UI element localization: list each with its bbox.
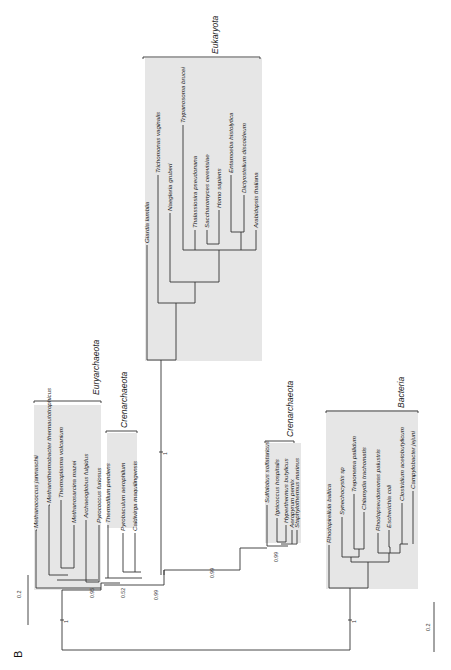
taxon-label: Naegleria gruberi (166, 163, 173, 211)
taxon-label: Clostridium acetobutylicum (398, 427, 405, 501)
clade-label-euryarchaeota: Euryarchaeota (91, 339, 101, 395)
clade-label-crenarchaeota-top: Crenarchaeota (119, 371, 129, 428)
panel-label-group: B (12, 651, 24, 658)
taxon-label: Thermoplasma volcanium (57, 427, 64, 498)
support-value: 0.99 (273, 552, 279, 562)
taxon-label: Staphylothermus marinus (293, 458, 300, 528)
taxon-label: Methanothermobacter thermautotrophicus (45, 388, 52, 503)
taxon-label: Campylobacter jejuni (409, 431, 416, 489)
root-branch (62, 590, 350, 650)
arch-backbone-3 (164, 570, 240, 585)
taxon-label: Escherichia coli (385, 484, 392, 528)
scale-bar-top: 0.2 (16, 575, 28, 625)
clade-label-crenarchaeota-mid: Crenarchaeota (285, 380, 295, 437)
support-value: 0.99 (209, 568, 215, 578)
taxon-label: Methanosarcina mazei (70, 460, 77, 523)
taxon-label: Treponema pallidum (350, 436, 357, 492)
cren-mid-stem (240, 548, 267, 570)
taxon-label: Synechocystis sp (338, 467, 345, 515)
taxon-label: Pyrobaculum aerophilum (119, 463, 126, 531)
taxon-label: Methanococcus jannaschii (32, 455, 39, 528)
taxon-label: Homo sapiens (215, 168, 222, 208)
scale-bar-bottom: 0.2 (425, 602, 434, 652)
support-value: 1 (63, 620, 69, 623)
taxon-label: Sulfolobus solfataricus (263, 441, 270, 503)
support-value: 0.99 (153, 590, 159, 600)
panel-label: B (12, 651, 24, 658)
taxon-label: Arabidopsis thaliana (252, 172, 259, 229)
taxon-label: Trypanosoma brucei (179, 66, 186, 123)
phylogenetic-tree-figure: B 0.2 0.2 Euryarchaeota Crenarchaeota Eu… (0, 0, 451, 670)
scale-bar-label: 0.2 (16, 590, 22, 598)
taxon-label: Giardia lamblia (143, 201, 150, 243)
scale-bar-bottom-label: 0.2 (425, 623, 431, 631)
taxon-label: Entamoeba histolytica (227, 112, 234, 173)
taxon-label: Caldivirga maquilingensis (131, 461, 138, 531)
support-value: 0.52 (120, 588, 126, 598)
clade-label-bacteria: Bacteria (396, 377, 406, 408)
support-value: 1 (351, 620, 357, 623)
taxon-label: Trichomonas vaginalis (154, 112, 161, 173)
taxon-label: Rhodopseudomonas palustris (374, 449, 381, 531)
taxon-label: Archaeoglobus fulgidus (82, 454, 89, 519)
clade-label-eukaryota: Eukaryota (210, 15, 220, 54)
taxon-label: Thermofilum pendens (104, 463, 111, 523)
crenarchaeota-top-bracket (106, 431, 137, 433)
taxon-label: Ignicoccus hospitalis (273, 459, 280, 516)
support-value: 1 (162, 452, 168, 455)
support-value: 0.95 (89, 588, 95, 598)
taxon-label: Saccharomyces cerevisiae (203, 154, 210, 228)
taxon-label: Rhodopirellula baltica (325, 483, 332, 543)
taxon-label: Pyrococcus furiosus (95, 468, 102, 523)
taxon-label: Dictyostelium discoideum (240, 123, 247, 193)
taxon-label: Chlamydia trachomatis (360, 447, 367, 510)
taxon-label: Thalassiosira pseudonana (191, 155, 198, 228)
